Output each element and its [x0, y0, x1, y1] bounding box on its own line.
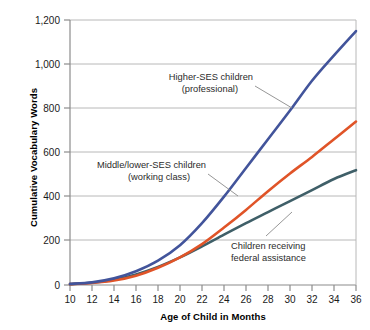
series-line-federal-assistance — [70, 170, 356, 284]
annotation-higher-ses-line2: (professional) — [182, 84, 238, 94]
x-tick-label-22: 22 — [196, 294, 208, 305]
annotation-federal-assistance-line1: Children receiving — [231, 241, 305, 251]
y-tick-label-800: 800 — [43, 103, 60, 114]
x-tick-labels: 10 12 14 16 18 20 22 24 26 28 30 32 34 3… — [64, 294, 362, 305]
x-tick-label-30: 30 — [284, 294, 296, 305]
x-tick-label-14: 14 — [108, 294, 120, 305]
x-tick-label-18: 18 — [152, 294, 164, 305]
annotation-higher-ses: Higher-SES children (professional) — [169, 72, 253, 94]
annotation-federal-assistance-line2: federal assistance — [231, 253, 306, 263]
x-tick-label-28: 28 — [262, 294, 274, 305]
x-tick-label-34: 34 — [328, 294, 340, 305]
chart-plot-area: 1,200 1,000 800 600 400 200 0 — [0, 0, 370, 330]
gridlines — [70, 20, 356, 240]
vocabulary-growth-chart: 1,200 1,000 800 600 400 200 0 — [0, 0, 370, 330]
x-tick-label-20: 20 — [174, 294, 186, 305]
annotation-middle-lower-ses-line2: (working class) — [128, 172, 190, 182]
x-tick-label-24: 24 — [218, 294, 230, 305]
x-tick-label-12: 12 — [86, 294, 98, 305]
x-tick-label-32: 32 — [306, 294, 318, 305]
y-tick-labels: 1,200 1,000 800 600 400 200 0 — [35, 15, 60, 291]
annotation-higher-ses-line1: Higher-SES children — [169, 72, 253, 82]
y-tick-label-600: 600 — [43, 147, 60, 158]
x-tick-label-26: 26 — [240, 294, 252, 305]
annotation-federal-assistance: Children receiving federal assistance — [231, 241, 306, 263]
y-tick-label-1000: 1,000 — [35, 59, 60, 70]
x-tick-label-16: 16 — [130, 294, 142, 305]
x-tick-label-10: 10 — [64, 294, 76, 305]
leader-line-higher-ses — [255, 86, 292, 108]
y-tick-marks — [64, 20, 70, 285]
y-tick-label-1200: 1,200 — [35, 15, 60, 26]
y-tick-label-0: 0 — [54, 280, 60, 291]
x-tick-marks — [70, 285, 356, 291]
y-axis-title: Cumulative Vocabulary Words — [28, 73, 39, 243]
series-line-middle-lower-ses — [70, 122, 356, 285]
y-tick-label-400: 400 — [43, 191, 60, 202]
leader-line-federal-assistance — [266, 212, 292, 236]
data-series-group — [70, 31, 356, 284]
x-tick-label-36: 36 — [350, 294, 362, 305]
x-axis-title: Age of Child in Months — [70, 311, 356, 322]
y-tick-label-200: 200 — [43, 235, 60, 246]
annotation-middle-lower-ses-line1: Middle/lower-SES children — [97, 160, 206, 170]
annotation-middle-lower-ses: Middle/lower-SES children (working class… — [97, 160, 206, 182]
